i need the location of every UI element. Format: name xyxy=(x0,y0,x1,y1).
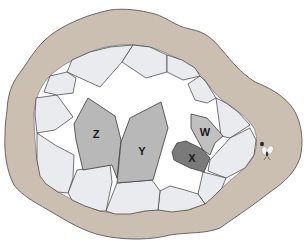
rock-cavity-diagram: Z Y W X xyxy=(0,0,308,243)
label-w: W xyxy=(200,126,211,138)
label-y: Y xyxy=(138,145,146,157)
label-z: Z xyxy=(93,128,100,140)
label-x: X xyxy=(188,152,196,164)
